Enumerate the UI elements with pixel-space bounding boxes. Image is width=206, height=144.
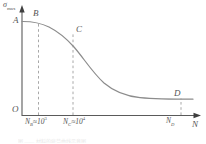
point-label-a: A — [13, 16, 19, 25]
figure-caption: 图 —— 材料的疲劳曲线示意图 — [18, 137, 188, 143]
y-axis-label: σmax — [3, 1, 15, 12]
tick-label-nc: NC≈104 — [63, 117, 85, 128]
fatigue-curve-figure: σmax A O B C D N NB≈103 NC≈104 ND 图 —— 材… — [0, 0, 206, 144]
y-axis-arrow — [19, 5, 24, 13]
fatigue-curve-path — [22, 21, 193, 99]
x-axis-label: N — [192, 120, 198, 129]
tick-label-nb: NB≈103 — [25, 117, 47, 128]
point-label-d: D — [174, 89, 181, 98]
point-label-c: C — [76, 25, 82, 34]
origin-label: O — [12, 105, 19, 114]
x-axis-arrow — [194, 113, 202, 118]
tick-label-nd: ND — [166, 117, 174, 127]
point-label-b: B — [33, 9, 39, 18]
